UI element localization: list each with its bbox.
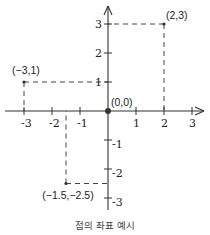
point-label: (−1.5,−2.5) [42, 189, 93, 201]
point-label: (0,0) [111, 96, 133, 108]
origin-point-marker [105, 108, 111, 114]
figure-caption: 점의 좌표 예시 [0, 218, 210, 232]
y-tick-label: 1 [95, 76, 102, 89]
point-marker [22, 80, 25, 83]
x-tick-label: 1 [133, 117, 140, 130]
x-tick-label: 2 [161, 117, 168, 130]
x-tick-label: -3 [21, 117, 32, 130]
plotted-points: (0,0)(2,3)(−3,1)(−1.5,−2.5) [12, 9, 188, 201]
x-tick-label: -1 [77, 117, 88, 130]
y-tick-label: -2 [112, 167, 123, 180]
point-label: (2,3) [166, 9, 188, 21]
axes [5, 6, 204, 210]
y-tick-label: -3 [112, 196, 123, 209]
y-tick-label: 2 [95, 47, 102, 60]
coordinate-plane: -3-2-1123-3-2-1123 (0,0)(2,3)(−3,1)(−1.5… [0, 0, 210, 215]
point-label: (−3,1) [12, 64, 40, 76]
x-tick-label: 3 [189, 117, 196, 130]
coordinate-plane-figure: -3-2-1123-3-2-1123 (0,0)(2,3)(−3,1)(−1.5… [0, 0, 210, 235]
x-tick-label: -2 [49, 117, 60, 130]
point-marker [162, 22, 165, 25]
y-tick-label: -1 [112, 138, 123, 151]
projection-lines [24, 24, 164, 184]
y-tick-label: 3 [95, 18, 102, 31]
point-marker [64, 182, 67, 185]
